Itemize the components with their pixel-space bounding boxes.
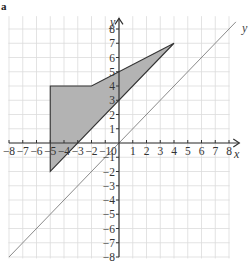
x-tick-label: 6 (199, 145, 205, 157)
y-tick-label: −4 (103, 194, 115, 206)
y-tick-label: 7 (109, 37, 115, 49)
y-tick-label: −3 (103, 180, 115, 192)
x-tick-label: 4 (171, 145, 177, 157)
x-tick-label: −8 (3, 145, 15, 157)
x-tick-label: −2 (85, 145, 97, 157)
x-tick-label: 8 (226, 145, 232, 157)
x-tick-label: −4 (58, 145, 70, 157)
x-tick-label: 2 (144, 145, 150, 157)
y-tick-label: 4 (109, 80, 115, 92)
y-tick-label: 8 (109, 23, 115, 35)
x-tick-label: 7 (212, 145, 218, 157)
y-tick-label: 5 (109, 66, 115, 78)
y-tick-label: 2 (109, 109, 115, 121)
x-tick-label: −5 (44, 145, 56, 157)
y-tick-label: −5 (103, 208, 115, 220)
coordinate-diagram: a y x y 0 −8−7−6−5−4−3−2−112345678876543… (0, 0, 250, 266)
x-tick-label: 3 (157, 145, 163, 157)
x-tick-label: 1 (130, 145, 136, 157)
x-tick-label: −6 (30, 145, 42, 157)
y-tick-label: −1 (103, 151, 115, 163)
x-tick-label: 5 (185, 145, 191, 157)
mirror-line-label: y (241, 21, 248, 35)
x-axis-name: x (233, 147, 240, 161)
mirror-line-layer: y (9, 21, 248, 257)
y-tick-label: 1 (109, 123, 115, 135)
part-label: a (1, 0, 7, 12)
y-tick-label: −8 (103, 251, 115, 263)
y-tick-label: −6 (103, 223, 115, 235)
y-tick-label: −7 (103, 237, 115, 249)
y-tick-label: −2 (103, 166, 115, 178)
y-tick-label: 6 (109, 52, 115, 64)
x-tick-label: −7 (17, 145, 29, 157)
y-tick-label: 3 (109, 94, 115, 106)
x-tick-label: −3 (72, 145, 84, 157)
